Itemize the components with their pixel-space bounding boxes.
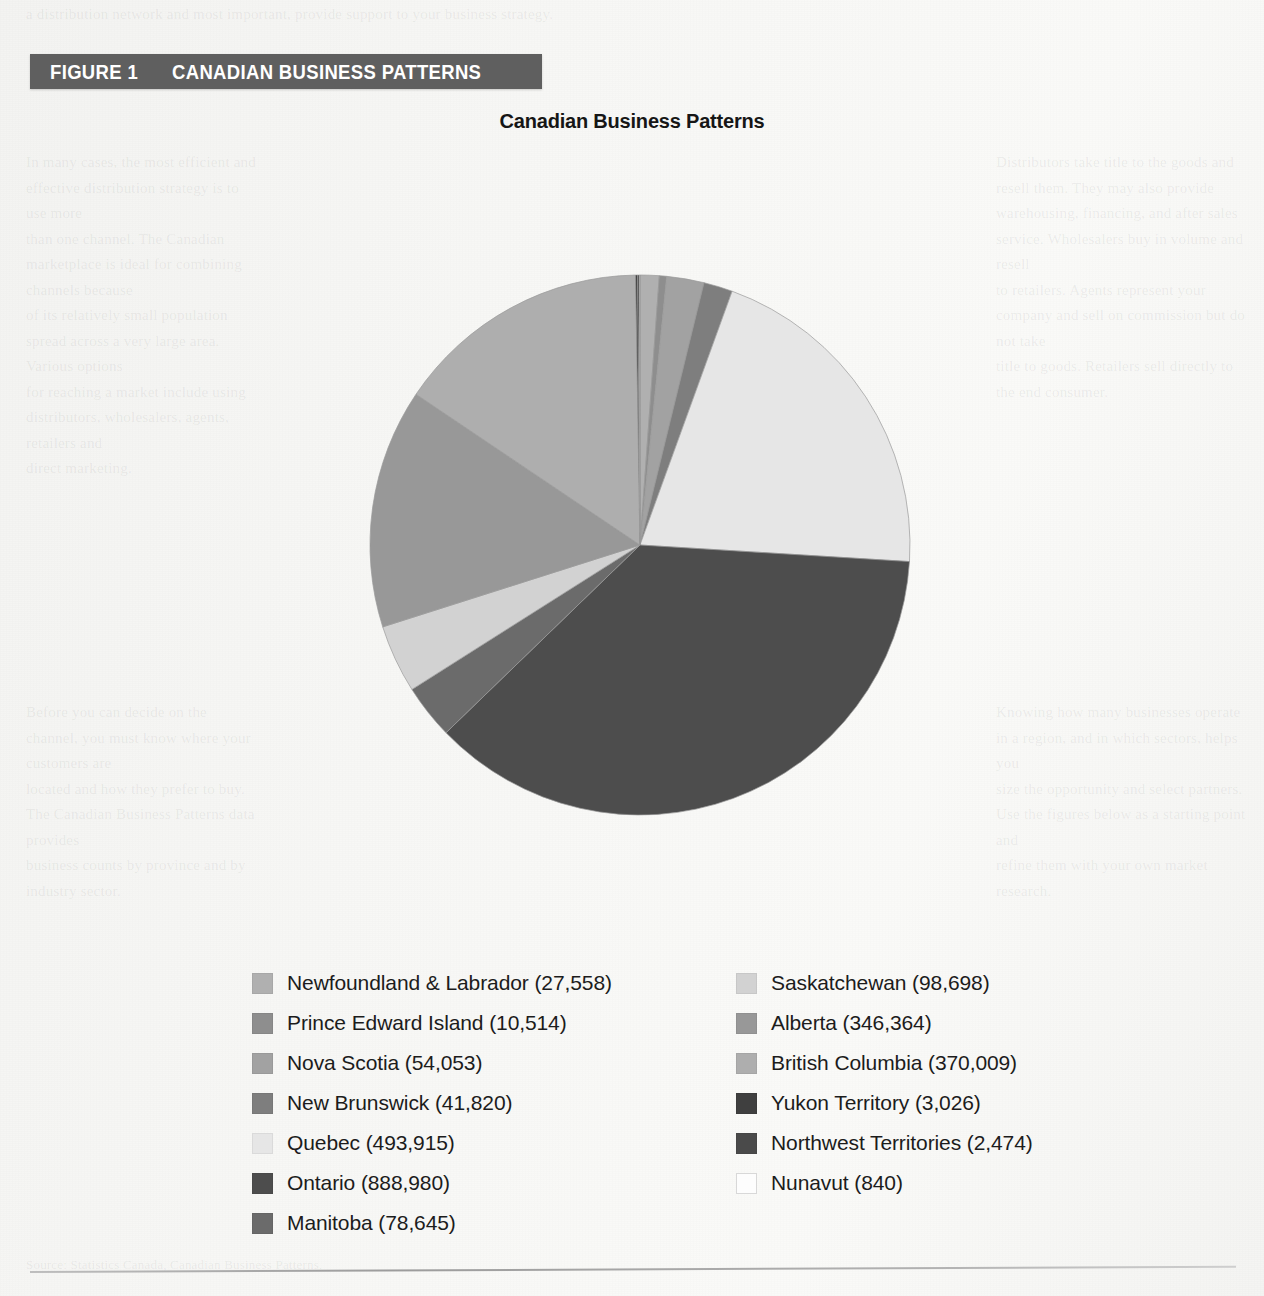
chart-title: Canadian Business Patterns: [0, 110, 1264, 133]
legend-item: Nunavut (840): [736, 1163, 1033, 1203]
legend-item-label: Saskatchewan (98,698): [771, 971, 990, 995]
bleed-through-text-middle: Before you can decide on the channel, yo…: [26, 700, 256, 904]
legend-swatch: [252, 1013, 273, 1034]
legend-swatch: [252, 1133, 273, 1154]
legend-item-label: Alberta (346,364): [771, 1011, 932, 1035]
figure-number-label: FIGURE 1: [50, 60, 138, 84]
legend-item: Prince Edward Island (10,514): [252, 1003, 612, 1043]
legend-item-label: Manitoba (78,645): [287, 1211, 456, 1235]
legend-item: New Brunswick (41,820): [252, 1083, 612, 1123]
legend-swatch: [736, 973, 757, 994]
legend-swatch: [736, 1013, 757, 1034]
legend-column-right: Saskatchewan (98,698)Alberta (346,364)Br…: [736, 963, 1033, 1203]
legend-item: Northwest Territories (2,474): [736, 1123, 1033, 1163]
legend-swatch: [252, 1053, 273, 1074]
bleed-through-text-left: In many cases, the most efficient and ef…: [26, 150, 256, 482]
bleed-through-text-middle-right: Knowing how many businesses operate in a…: [996, 700, 1246, 904]
legend-swatch: [252, 1173, 273, 1194]
legend-item-label: Newfoundland & Labrador (27,558): [287, 971, 612, 995]
legend-swatch: [736, 1093, 757, 1114]
legend-swatch: [252, 1093, 273, 1114]
legend-item-label: Nova Scotia (54,053): [287, 1051, 482, 1075]
legend-item: Yukon Territory (3,026): [736, 1083, 1033, 1123]
legend-item-label: Northwest Territories (2,474): [771, 1131, 1033, 1155]
legend-item: British Columbia (370,009): [736, 1043, 1033, 1083]
legend-swatch: [736, 1173, 757, 1194]
bleed-through-text-right: Distributors take title to the goods and…: [996, 150, 1246, 405]
pie-chart: Newfoundland & Labrador (27,558)Prince E…: [367, 272, 913, 818]
legend-item-label: New Brunswick (41,820): [287, 1091, 512, 1115]
legend-item-label: Yukon Territory (3,026): [771, 1091, 981, 1115]
legend-item: Nova Scotia (54,053): [252, 1043, 612, 1083]
legend-swatch: [736, 1133, 757, 1154]
legend-item: Ontario (888,980): [252, 1163, 612, 1203]
figure-banner: FIGURE 1 CANADIAN BUSINESS PATTERNS: [30, 54, 542, 89]
legend-item: Quebec (493,915): [252, 1123, 612, 1163]
legend-swatch: [252, 973, 273, 994]
legend-item-label: Nunavut (840): [771, 1171, 903, 1195]
chart-legend: Newfoundland & Labrador (27,558)Prince E…: [0, 963, 1264, 1263]
legend-item-label: Prince Edward Island (10,514): [287, 1011, 567, 1035]
legend-column-left: Newfoundland & Labrador (27,558)Prince E…: [252, 963, 612, 1243]
legend-item-label: Ontario (888,980): [287, 1171, 450, 1195]
legend-item-label: British Columbia (370,009): [771, 1051, 1017, 1075]
figure-title: CANADIAN BUSINESS PATTERNS: [172, 60, 481, 84]
legend-item: Manitoba (78,645): [252, 1203, 612, 1243]
pie-chart-svg: Newfoundland & Labrador (27,558)Prince E…: [367, 272, 913, 818]
figure-page: a distribution network and most importan…: [0, 0, 1264, 1296]
legend-item: Newfoundland & Labrador (27,558): [252, 963, 612, 1003]
legend-item: Saskatchewan (98,698): [736, 963, 1033, 1003]
legend-item-label: Quebec (493,915): [287, 1131, 455, 1155]
legend-swatch: [252, 1213, 273, 1234]
bleed-through-text-top: a distribution network and most importan…: [26, 2, 1236, 28]
legend-swatch: [736, 1053, 757, 1074]
figure-bottom-rule: [30, 1266, 1236, 1273]
legend-item: Alberta (346,364): [736, 1003, 1033, 1043]
